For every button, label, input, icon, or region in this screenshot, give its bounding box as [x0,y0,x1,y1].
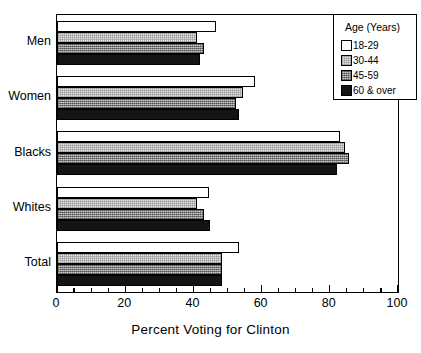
bar [57,76,255,87]
x-axis-tick-label: 60 [254,296,268,310]
x-axis-minor-tick [159,288,160,292]
bar [57,164,337,175]
x-axis-minor-tick [176,288,177,292]
bar [57,98,236,109]
bar [57,187,209,198]
x-axis-tick-label: 40 [185,296,199,310]
y-axis-category-label: Whites [0,200,51,214]
legend-label: 45-59 [353,70,379,81]
bar-group [57,126,398,181]
legend-entry: 30-44 [341,53,416,67]
x-axis-minor-tick [312,288,313,292]
x-axis-major-tick [329,285,330,292]
x-axis-title: Percent Voting for Clinton [0,322,421,337]
bar [57,142,345,153]
bar [57,242,239,253]
x-axis-major-tick [125,285,126,292]
x-axis-minor-tick [108,288,109,292]
y-axis-category-label: Women [0,89,51,103]
bar [57,131,340,142]
legend-entry: 60 & over [341,83,416,97]
legend-swatch [341,85,352,96]
x-axis-minor-tick [227,288,228,292]
legend-entry: 18-29 [341,38,416,52]
legend-entries: 18-2930-4445-5960 & over [341,38,416,97]
x-axis-major-tick [193,285,194,292]
bar [57,253,222,264]
legend-title: Age (Years) [345,21,416,33]
legend-swatch [341,55,352,66]
y-axis-category-label: Total [0,255,51,269]
x-axis-minor-tick [346,288,347,292]
bar [57,21,216,32]
bar [57,264,222,275]
bar [57,209,204,220]
bar [57,43,204,54]
bar [57,220,210,231]
x-axis-major-tick [397,285,398,292]
x-axis-tick-label: 80 [322,296,336,310]
x-axis-major-tick [261,285,262,292]
x-axis-tick-label: 20 [117,296,131,310]
x-axis-minor-tick [295,288,296,292]
bar [57,109,239,120]
x-axis-minor-tick [210,288,211,292]
legend: Age (Years) 18-2930-4445-5960 & over [333,14,417,100]
x-axis-minor-tick [244,288,245,292]
legend-entry: 45-59 [341,68,416,82]
x-axis-tick-label: 100 [387,296,408,310]
bar [57,54,200,65]
legend-label: 18-29 [353,40,379,51]
y-axis-category-label: Men [0,34,51,48]
x-axis-minor-tick [363,288,364,292]
bar-group [57,181,398,236]
x-axis-minor-tick [91,288,92,292]
legend-swatch [341,40,352,51]
x-axis-tick-label: 0 [53,296,60,310]
legend-label: 60 & over [353,85,396,96]
bar [57,87,243,98]
bar [57,153,349,164]
bar-group [57,237,398,292]
x-axis-minor-tick [142,288,143,292]
legend-label: 30-44 [353,55,379,66]
bar [57,32,197,43]
legend-swatch [341,70,352,81]
bar-chart: MenWomenBlacksWhitesTotal 020406080100 P… [0,0,421,353]
bar [57,198,197,209]
y-axis-category-label: Blacks [0,145,51,159]
x-axis-minor-tick [278,288,279,292]
x-axis-minor-tick [380,288,381,292]
x-axis-major-tick [56,285,57,292]
bar [57,275,222,286]
x-axis-minor-tick [73,288,74,292]
